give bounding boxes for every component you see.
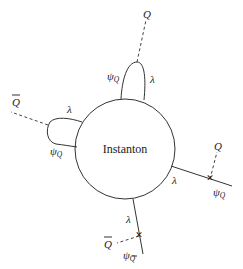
- left-qbar-label: Q: [12, 96, 20, 108]
- right-leg-line: [171, 166, 232, 186]
- right-q-label: Q: [214, 140, 222, 152]
- left-lambda-label: λ: [66, 103, 72, 115]
- instanton-diagram: Instanton Q ψQ λ Q λ ψQ ✕ Q λ ψQ ✕ λ Q ψ…: [0, 0, 243, 269]
- top-loop: [121, 62, 145, 100]
- left-qbar-symbol: Q: [12, 96, 20, 108]
- bottom-qbar-label: Q: [104, 238, 112, 250]
- instanton-label: Instanton: [103, 142, 148, 156]
- left-psi-label: ψQ: [50, 145, 63, 159]
- top-q-dashed-line: [137, 20, 146, 62]
- bottom-vertex-marker: ✕: [135, 230, 143, 240]
- bottom-lambda-label: λ: [125, 213, 131, 225]
- right-psi-label: ψQ: [213, 186, 226, 200]
- top-lambda-label: λ: [149, 73, 155, 85]
- top-q-label: Q: [143, 8, 151, 20]
- bottom-psi-subscript: Q: [130, 254, 136, 263]
- top-psi-label: ψQ: [107, 70, 120, 84]
- bottom-qbar-symbol: Q: [104, 238, 112, 250]
- left-psi-subscript: Q: [57, 150, 63, 159]
- top-psi-subscript: Q: [114, 75, 120, 84]
- right-vertex-marker: ✕: [206, 173, 214, 183]
- left-qbar-dashed-line: [11, 112, 48, 125]
- left-loop: [47, 118, 82, 147]
- right-lambda-label: λ: [171, 174, 177, 186]
- bottom-leg-line: [133, 199, 143, 254]
- right-psi-subscript: Q: [220, 191, 226, 200]
